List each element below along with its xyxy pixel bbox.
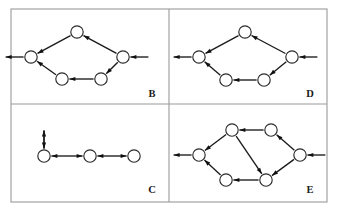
panel-c-label: C: [148, 184, 156, 195]
panels-layer: BDCE: [6, 26, 326, 195]
graph-node: [258, 74, 270, 86]
graph-node: [220, 174, 232, 186]
arrowhead-icon: [69, 77, 75, 81]
edge-directed: [38, 36, 71, 54]
graph-node: [84, 150, 96, 162]
arrowhead-icon: [77, 154, 83, 158]
edge-directed: [37, 61, 56, 74]
arrowhead-icon: [121, 154, 127, 158]
edge-directed: [270, 62, 287, 76]
graph-node: [239, 26, 251, 38]
graph-node: [95, 73, 107, 85]
edge-directed: [252, 35, 286, 53]
external-edge-in-left: [307, 153, 325, 157]
edge-directed: [233, 78, 256, 82]
graph-node: [128, 150, 140, 162]
external-edge-in-left: [299, 55, 317, 59]
arrowhead-icon: [233, 178, 239, 182]
edge-directed: [69, 77, 93, 81]
external-edge-out-left: [6, 55, 24, 59]
edge-directed: [205, 62, 221, 75]
panel-d-label: D: [306, 88, 314, 99]
panel-d-nodes: [193, 26, 298, 86]
graph-node: [220, 74, 232, 86]
edge-directed: [206, 36, 239, 54]
edge-directed: [239, 128, 263, 132]
edge-bidirectional: [97, 154, 126, 158]
external-edge-in-up: [42, 131, 46, 149]
panel-b-label: B: [148, 88, 155, 99]
arrowhead-icon: [174, 153, 180, 157]
edge-directed: [272, 159, 294, 175]
graph-node: [260, 174, 272, 186]
panel-e: E: [174, 124, 326, 195]
graph-node: [193, 51, 205, 63]
graph-node: [25, 51, 37, 63]
edge-directed: [84, 36, 117, 54]
arrowhead-icon: [299, 55, 305, 59]
network-diagram-figure: BDCE: [0, 0, 338, 211]
figure-container: BDCE: [0, 0, 338, 211]
panel-e-label: E: [306, 184, 313, 195]
edge-bidirectional: [51, 154, 82, 158]
arrowhead-icon: [38, 49, 44, 54]
arrowhead-icon: [130, 55, 136, 59]
edge-directed: [233, 178, 258, 182]
graph-node: [286, 51, 298, 63]
arrowhead-icon: [84, 36, 90, 41]
edge-directed: [205, 134, 226, 150]
graph-node: [71, 26, 83, 38]
arrowhead-icon: [51, 154, 57, 158]
arrowhead-icon: [206, 49, 212, 54]
panel-b-nodes: [25, 26, 129, 85]
panel-c: C: [38, 131, 156, 195]
graph-node: [38, 150, 50, 162]
edge-line: [236, 136, 262, 174]
panel-b: B: [6, 26, 156, 99]
graph-node: [56, 73, 68, 85]
arrowhead-icon: [174, 55, 180, 59]
graph-node: [226, 124, 238, 136]
edge-directed: [106, 62, 118, 74]
edge-directed: [204, 160, 220, 175]
graph-node: [294, 149, 306, 161]
graph-node: [265, 124, 277, 136]
external-edge-out-left: [174, 153, 192, 157]
arrowhead-icon: [6, 55, 12, 59]
panel-d: D: [174, 26, 318, 99]
edge-directed: [277, 135, 295, 150]
edge-directed: [236, 136, 262, 174]
arrowhead-icon: [239, 128, 245, 132]
arrowhead-icon: [233, 78, 239, 82]
panel-frame-layer: [11, 9, 327, 202]
arrowhead-icon: [307, 153, 313, 157]
external-edge-in-left: [130, 55, 148, 59]
graph-node: [193, 149, 205, 161]
arrowhead-icon: [42, 143, 46, 149]
arrowhead-icon: [97, 154, 103, 158]
graph-node: [117, 51, 129, 63]
external-edge-out-left: [174, 55, 192, 59]
arrowhead-icon: [252, 35, 258, 40]
